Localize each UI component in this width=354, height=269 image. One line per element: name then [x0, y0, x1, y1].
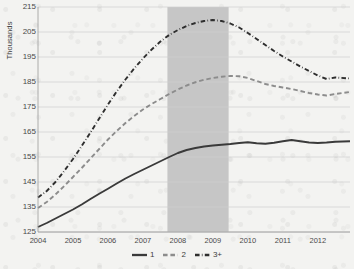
legend-swatch-1	[132, 251, 147, 259]
y-tick-label-185: 185	[0, 77, 36, 86]
legend-swatch-2	[163, 251, 178, 259]
chart-legend: 123+	[0, 251, 354, 259]
y-tick-label-155: 155	[0, 152, 36, 161]
x-tick-label-2011: 2011	[275, 236, 291, 245]
legend-label-2: 2	[181, 251, 185, 259]
y-tick-label-175: 175	[0, 102, 36, 111]
x-tick-label-2005: 2005	[65, 236, 82, 245]
y-tick-label-165: 165	[0, 127, 36, 136]
chart-container: Thousands 125135145155165175185195205215…	[0, 0, 354, 269]
x-tick-label-2004: 2004	[30, 236, 47, 245]
y-tick-label-215: 215	[0, 2, 36, 11]
x-tick-label-2007: 2007	[135, 236, 152, 245]
x-tick-label-2010: 2010	[240, 236, 257, 245]
legend-label-1: 1	[150, 251, 154, 259]
legend-entry-3+[interactable]: 3+	[195, 251, 222, 259]
y-tick-label-135: 135	[0, 202, 36, 211]
x-tick-label-2009: 2009	[205, 236, 222, 245]
recession-band-group	[167, 7, 228, 232]
y-tick-label-125: 125	[0, 227, 36, 236]
y-tick-label-145: 145	[0, 177, 36, 186]
y-tick-label-205: 205	[0, 27, 36, 36]
legend-label-3+: 3+	[213, 251, 222, 259]
recession-shading	[167, 7, 228, 232]
x-tick-label-2012: 2012	[309, 236, 326, 245]
legend-entry-2[interactable]: 2	[163, 251, 185, 259]
legend-entry-1[interactable]: 1	[132, 251, 154, 259]
y-tick-label-195: 195	[0, 52, 36, 61]
x-tick-label-2008: 2008	[170, 236, 187, 245]
chart-plot-area	[0, 0, 354, 269]
x-tick-label-2006: 2006	[100, 236, 117, 245]
legend-swatch-3+	[195, 251, 210, 259]
